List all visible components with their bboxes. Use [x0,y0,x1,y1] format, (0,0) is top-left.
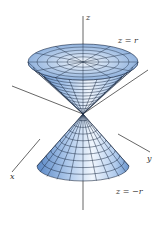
lower-cone [37,114,129,181]
y-axis-front [118,134,150,152]
double-cone-figure: z z = r x y z = −r [0,0,168,228]
lower-cone-equation-label: z = −r [116,188,143,196]
upper-cone [28,44,138,114]
z-axis-label: z [86,14,90,22]
x-axis-front [12,139,40,172]
y-axis-label: y [147,155,152,163]
upper-cone-equation-label: z = r [118,37,138,45]
x-axis-label: x [10,173,15,181]
